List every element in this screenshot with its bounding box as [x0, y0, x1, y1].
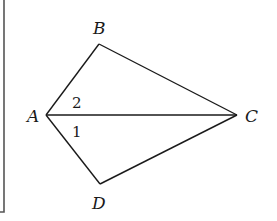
geometry-diagram: B A C D 2 1: [0, 0, 277, 221]
segment-cd: [100, 115, 237, 184]
vertex-label-d: D: [91, 193, 106, 213]
vertex-label-b: B: [92, 18, 106, 38]
angle-label-2: 2: [72, 94, 82, 112]
frame-border: [0, 0, 4, 212]
angle-label-1: 1: [72, 123, 82, 141]
segment-bc: [99, 44, 237, 115]
vertex-label-c: C: [245, 106, 258, 126]
diagram-svg: B A C D 2 1: [0, 0, 277, 221]
vertex-label-a: A: [25, 106, 39, 126]
